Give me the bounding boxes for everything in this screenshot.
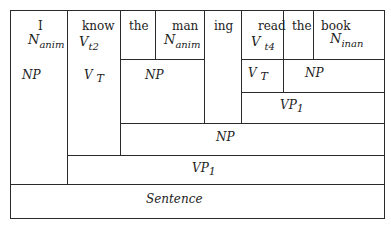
label-n-anim-2: Nanim <box>164 34 200 51</box>
label-vt-know: V T <box>84 69 104 85</box>
label-np-i: NP <box>22 69 41 81</box>
word-man: man <box>172 20 198 32</box>
cell-np-big <box>120 123 385 156</box>
cell-the-2 <box>283 10 314 60</box>
cell-vp1-inner <box>241 92 385 124</box>
cell-np-the-book <box>283 59 385 93</box>
label-np-the-man: NP <box>145 69 164 81</box>
label-np-the-book: NP <box>305 67 324 79</box>
word-know: know <box>82 20 115 32</box>
cell-vp1-outer <box>67 155 385 185</box>
label-sentence: Sentence <box>146 193 203 205</box>
cell-the-1 <box>120 10 156 60</box>
label-n-inan: Ninan <box>330 33 363 50</box>
label-vp1-outer: VP1 <box>192 162 216 178</box>
label-n-anim-1: Nanim <box>28 34 64 51</box>
word-i: I <box>38 20 43 32</box>
label-vt-read: V T <box>248 67 268 83</box>
label-v-t4: Vt4 <box>251 36 275 53</box>
label-v-t2: Vt2 <box>79 36 99 53</box>
word-read: read <box>258 20 286 32</box>
label-np-big: NP <box>216 131 235 143</box>
word-the-2: the <box>292 20 312 32</box>
label-vp1-inner: VP1 <box>280 99 304 115</box>
word-ing: ing <box>214 20 233 32</box>
word-the-1: the <box>129 20 149 32</box>
